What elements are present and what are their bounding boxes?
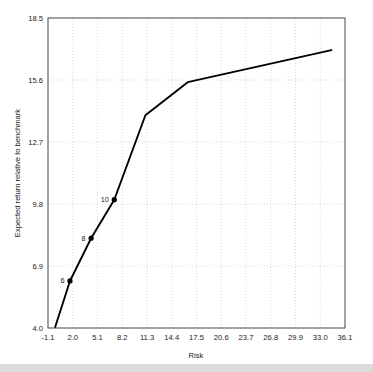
y-tick-label: 9.8 [32,200,43,209]
x-tick-label: 5.1 [92,333,103,342]
y-tick-label: 15.6 [28,76,43,85]
bottom-edge-band [0,364,373,372]
x-axis-title: Risk [189,351,204,360]
y-tick-label: 4.0 [32,324,43,333]
x-tick-label: 26.8 [263,333,278,342]
x-tick-label: 14.4 [164,333,179,342]
data-point-label: 6 [60,276,64,285]
data-point-marker [67,278,72,283]
data-point-marker [89,236,94,241]
data-point-marker [112,197,117,202]
x-tick-label: 23.7 [239,333,254,342]
x-tick-label: 33.0 [313,333,328,342]
y-tick-label: 18.5 [28,14,43,23]
risk-return-line-chart: 18.515.612.79.86.94.0 -1.12.05.18.211.31… [0,0,373,372]
data-point-label: 8 [82,234,86,243]
y-axis-title: Expected return relative to benchmark [13,109,22,238]
x-tick-label: 17.5 [189,333,204,342]
chart-background [0,0,373,372]
x-tick-label: 11.3 [140,333,154,342]
x-tick-label: 8.2 [117,333,128,342]
y-tick-label: 12.7 [28,138,43,147]
chart-figure: 18.515.612.79.86.94.0 -1.12.05.18.211.31… [0,0,373,372]
x-tick-label: -1.1 [41,333,54,342]
x-tick-label: 20.6 [214,333,229,342]
x-tick-label: 36.1 [338,333,353,342]
x-tick-label: 29.9 [288,333,303,342]
data-point-label: 10 [101,195,109,204]
x-tick-label: 2.0 [67,333,78,342]
y-tick-label: 6.9 [32,262,43,271]
